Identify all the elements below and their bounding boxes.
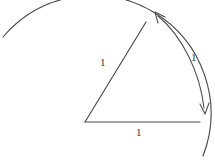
arc-length-arrow-curve (158, 16, 204, 108)
radius-base-label: 1 (136, 127, 142, 138)
radius-slant-line (85, 22, 146, 122)
radius-slant-label: 1 (100, 57, 106, 68)
arc-length-label: 1 (191, 52, 197, 63)
radian-diagram-figure: 1 1 1 (0, 0, 215, 165)
circle-arc (3, 0, 211, 156)
arrow-down-icon (200, 103, 209, 114)
diagram-canvas (0, 0, 215, 165)
